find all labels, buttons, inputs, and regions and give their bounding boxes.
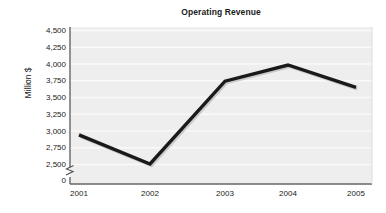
- plot-area: [70, 27, 372, 184]
- y-tick-label: 3,750: [26, 76, 66, 85]
- x-tick-label-2005: 2005: [332, 189, 380, 198]
- series-operating-revenue: [79, 65, 356, 164]
- data-series-line: [70, 27, 372, 184]
- y-tick-label: 2,750: [26, 143, 66, 152]
- y-axis-tick-labels: 4,500 4,250 4,000 3,750 3,500 3,250 3,00…: [24, 0, 66, 213]
- y-tick-label: 4,000: [26, 60, 66, 69]
- x-tick-label-2002: 2002: [126, 189, 174, 198]
- x-tick-label-2004: 2004: [264, 189, 312, 198]
- y-tick-label: 2,500: [26, 160, 66, 169]
- y-tick-label: 3,000: [26, 127, 66, 136]
- y-tick-label: 3,500: [26, 93, 66, 102]
- y-tick-label: 4,250: [26, 43, 66, 52]
- chart-title: Operating Revenue: [70, 7, 372, 17]
- y-tick-label-zero: 0: [26, 176, 66, 185]
- operating-revenue-line-chart: Operating Revenue Million $ 4,500 4,250 …: [0, 0, 386, 213]
- y-tick-label: 3,250: [26, 110, 66, 119]
- x-tick-label-2003: 2003: [201, 189, 249, 198]
- y-tick-label: 4,500: [26, 26, 66, 35]
- series-shadow: [80, 66, 357, 165]
- x-tick-label-2001: 2001: [55, 189, 103, 198]
